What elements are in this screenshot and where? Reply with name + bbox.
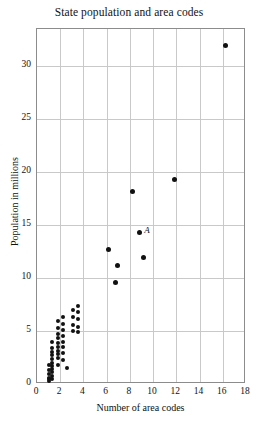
data-point — [61, 351, 65, 355]
y-tick-label: 5 — [9, 324, 31, 334]
point-annotation-label: A — [144, 225, 150, 235]
data-point — [50, 340, 54, 344]
data-point — [76, 325, 80, 329]
gridline-vertical — [176, 29, 177, 382]
x-tick-label: 10 — [140, 386, 164, 396]
data-point — [61, 322, 65, 326]
y-axis-label: Population in millions — [9, 122, 20, 282]
data-point — [61, 315, 65, 319]
data-point — [76, 310, 80, 314]
gridline-horizontal — [37, 119, 244, 120]
data-point — [115, 263, 120, 268]
gridline-vertical — [200, 29, 201, 382]
data-point — [172, 177, 177, 182]
gridline-horizontal — [37, 225, 244, 226]
data-point — [76, 330, 80, 334]
data-point — [113, 280, 118, 285]
data-point — [50, 377, 54, 381]
x-axis-label: Number of area codes — [36, 402, 245, 413]
data-point — [71, 308, 75, 312]
data-point — [130, 189, 135, 194]
data-point — [65, 366, 69, 370]
gridline-vertical — [83, 29, 84, 382]
data-point — [71, 329, 75, 333]
plot-area: A — [36, 28, 245, 383]
data-point — [71, 315, 75, 319]
gridline-vertical — [223, 29, 224, 382]
data-point — [56, 363, 60, 367]
data-point — [71, 323, 75, 327]
x-tick-label: 14 — [187, 386, 211, 396]
gridline-horizontal — [37, 331, 244, 332]
data-point — [56, 356, 60, 360]
data-point — [106, 247, 111, 252]
y-tick-label: 30 — [9, 59, 31, 69]
y-tick-label: 0 — [9, 377, 31, 387]
data-point — [223, 43, 228, 48]
data-point — [61, 328, 65, 332]
x-tick-label: 6 — [94, 386, 118, 396]
data-point — [50, 357, 54, 361]
data-point — [61, 340, 65, 344]
gridline-horizontal — [37, 172, 244, 173]
gridline-horizontal — [37, 66, 244, 67]
gridline-vertical — [107, 29, 108, 382]
data-point — [56, 326, 60, 330]
data-point — [61, 334, 65, 338]
chart-title: State population and area codes — [0, 6, 258, 18]
x-tick-label: 12 — [163, 386, 187, 396]
data-point — [137, 230, 142, 235]
x-tick-label: 16 — [210, 386, 234, 396]
gridline-vertical — [153, 29, 154, 382]
data-point — [76, 317, 80, 321]
x-tick-label: 8 — [117, 386, 141, 396]
gridline-horizontal — [37, 278, 244, 279]
data-point — [76, 304, 80, 308]
data-point — [61, 358, 65, 362]
gridline-vertical — [130, 29, 131, 382]
data-point — [61, 345, 65, 349]
scatter-plot-figure: State population and area codes A 024681… — [0, 0, 258, 424]
data-point — [141, 255, 146, 260]
x-tick-label: 0 — [24, 386, 48, 396]
x-tick-label: 4 — [70, 386, 94, 396]
x-tick-label: 2 — [47, 386, 71, 396]
x-tick-label: 18 — [233, 386, 257, 396]
